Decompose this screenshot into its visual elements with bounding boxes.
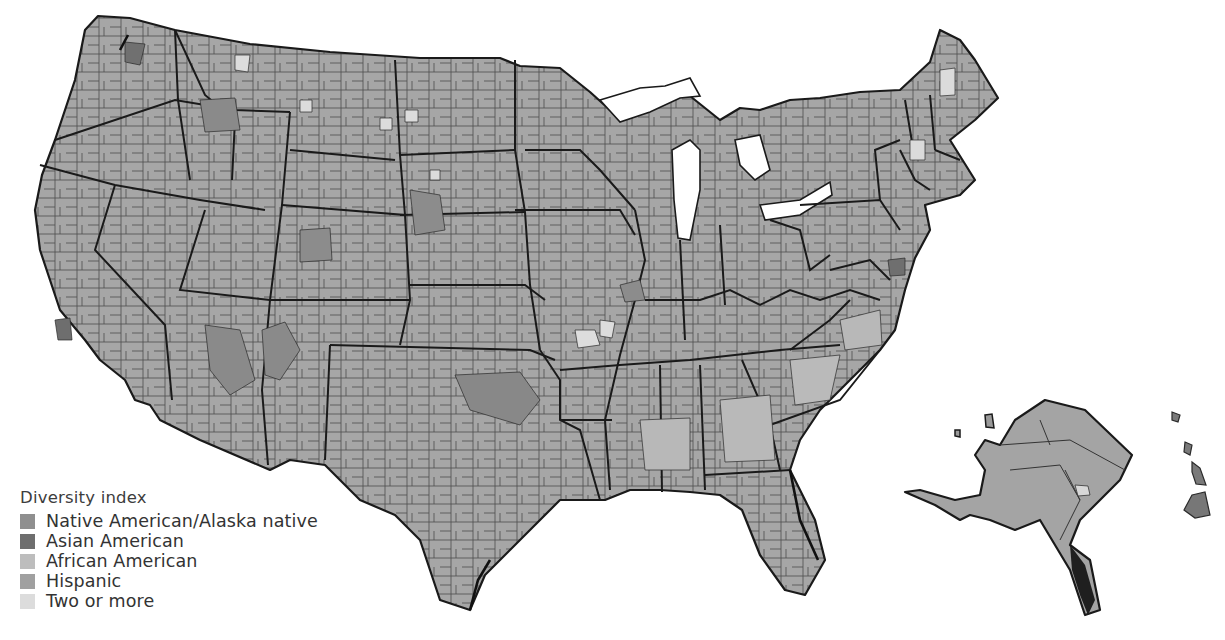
legend-label: Hispanic: [46, 571, 121, 591]
map-container: Diversity index Native American/Alaska n…: [0, 0, 1225, 640]
hawaii: [1172, 412, 1210, 518]
alaska: [905, 400, 1132, 615]
legend-swatch: [20, 534, 35, 549]
legend-item-native-american: Native American/Alaska native: [20, 511, 318, 531]
legend-swatch: [20, 514, 35, 529]
legend-label: Asian American: [46, 531, 184, 551]
legend-label: African American: [46, 551, 197, 571]
legend-label: Two or more: [46, 591, 154, 611]
legend-item-african-american: African American: [20, 551, 318, 571]
legend-label: Native American/Alaska native: [46, 511, 318, 531]
hawaii-big-island: [1184, 492, 1210, 518]
alaska-light-borough: [1075, 485, 1090, 496]
alaska-outline: [905, 400, 1132, 615]
legend-item-two-or-more: Two or more: [20, 591, 318, 611]
legend: Diversity index Native American/Alaska n…: [20, 488, 318, 611]
legend-swatch: [20, 554, 35, 569]
alaska-islands: [955, 414, 994, 437]
legend-item-hispanic: Hispanic: [20, 571, 318, 591]
legend-swatch: [20, 594, 35, 609]
legend-title: Diversity index: [20, 488, 318, 507]
legend-swatch: [20, 574, 35, 589]
legend-item-asian-american: Asian American: [20, 531, 318, 551]
